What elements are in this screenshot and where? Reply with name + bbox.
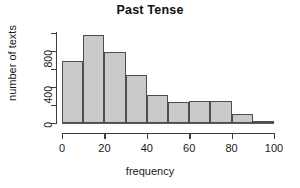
x-axis-tick (274, 133, 275, 139)
y-axis-tick-label: 400 (42, 86, 54, 104)
y-axis-tick (51, 69, 57, 70)
x-axis-tick-label: 20 (89, 142, 119, 154)
x-axis-tick (104, 133, 105, 139)
x-axis-line (62, 133, 274, 134)
y-axis-label: number of texts (6, 3, 18, 123)
x-axis-tick-label: 40 (132, 142, 162, 154)
histogram-bar (83, 35, 104, 122)
y-axis-tick (51, 33, 57, 34)
histogram-bar (126, 75, 147, 122)
x-axis-tick (147, 133, 148, 139)
histogram-bar (210, 101, 231, 122)
x-axis-tick-label: 0 (47, 142, 77, 154)
x-axis-tick-label: 60 (174, 142, 204, 154)
histogram-bar (62, 61, 83, 123)
y-axis-tick-label: 0 (42, 122, 54, 128)
histogram-bar (168, 102, 189, 122)
bars-baseline (62, 123, 274, 124)
x-axis-tick-label: 100 (259, 142, 289, 154)
plot-area: 0400800 020406080100 (0, 0, 300, 188)
y-axis-tick (51, 105, 57, 106)
histogram-bar (189, 101, 210, 122)
x-axis-tick (62, 133, 63, 139)
x-axis-tick-label: 80 (217, 142, 247, 154)
histogram-bar (147, 95, 168, 123)
histogram-bar (232, 114, 253, 123)
y-axis-tick-label: 800 (42, 50, 54, 68)
x-axis-label: frequency (0, 165, 300, 177)
histogram-bar (104, 52, 125, 123)
x-axis-tick (232, 133, 233, 139)
y-axis-line (56, 32, 57, 124)
histogram-figure: Past Tense 0400800 020406080100 frequenc… (0, 0, 300, 188)
x-axis-tick (189, 133, 190, 139)
